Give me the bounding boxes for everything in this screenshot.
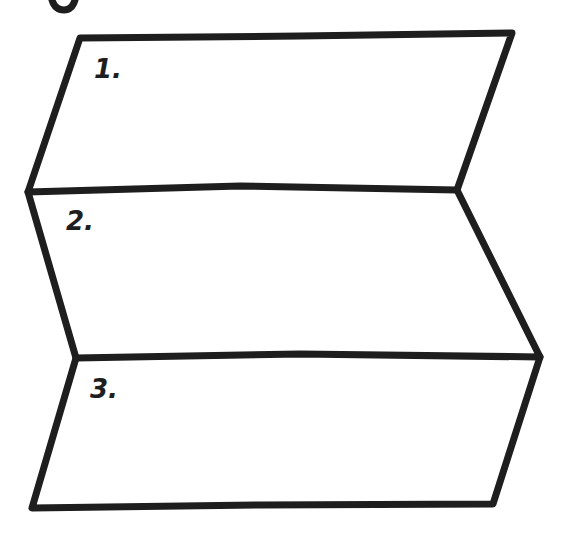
folded-paper-diagram [0,0,565,538]
panel-3-label: 3. [90,374,118,404]
panel-1-label: 1. [94,54,122,84]
panel-2-label: 2. [66,206,94,236]
panel-2-outline [28,190,540,358]
partial-glyph [52,0,75,10]
